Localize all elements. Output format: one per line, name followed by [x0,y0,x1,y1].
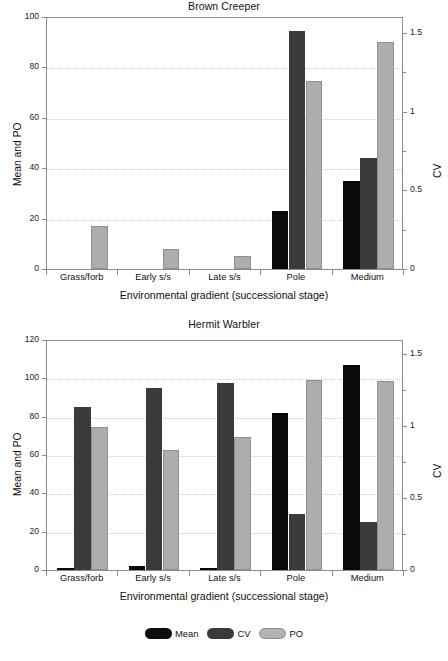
legend-swatch-po [259,628,286,639]
y-axis-tick-label: 100 [6,372,39,382]
y-axis-right-minor-tick [403,390,406,391]
y-axis-tick [42,340,46,341]
bar-cv [360,522,377,570]
y-axis-right-minor-tick [403,462,406,463]
bar-cv [217,383,234,570]
x-axis-title-b: Environmental gradient (successional sta… [0,590,448,602]
x-axis-category-label: Late s/s [189,573,260,583]
y-axis-tick-label: 40 [6,487,39,497]
x-axis-category-label: Grass/forb [46,272,117,282]
x-axis-line [46,570,403,571]
bar-po [163,249,180,269]
panel-hermit-warbler: Hermit Warbler B Mean and PO CV Environm… [0,318,448,608]
bar-mean [272,211,289,269]
legend-label-cv: CV [237,628,250,639]
y-axis-tick-label: 60 [6,449,39,459]
x-axis-category-separator [260,570,261,576]
x-axis-category-label: Grass/forb [46,573,117,583]
bar-cv [289,514,306,570]
y-axis-tick [42,168,46,169]
chart-title-a: Brown Creeper [0,0,448,12]
figure-legend: MeanCVPO [0,628,448,639]
y-axis-tick [42,455,46,456]
y-axis-tick [42,118,46,119]
y-axis-tick-label: 0 [6,263,39,273]
y-axis-right-tick [403,112,407,113]
bar-cv [146,388,163,570]
panel-brown-creeper: Brown Creeper A Mean and PO CV Environme… [0,0,448,305]
y-axis-right-title-b: CV [432,464,443,478]
x-axis-category-label: Late s/s [189,272,260,282]
bar-po [91,427,108,570]
y-axis-right-minor-tick [403,534,406,535]
y-axis-right-tick-label: 1 [410,420,415,430]
y-axis-tick-label: 40 [6,162,39,172]
x-axis-category-label: Medium [332,573,403,583]
chart-title-b: Hermit Warbler [0,318,448,330]
x-axis-line [46,269,403,270]
bar-po [91,226,108,269]
bar-mean [343,365,360,570]
y-axis-right-tick [403,354,407,355]
gridline [47,169,402,170]
y-axis-tick [42,17,46,18]
x-axis-category-separator [189,570,190,576]
bar-po [377,381,394,570]
x-axis-category-separator [117,570,118,576]
legend-label-mean: Mean [175,628,198,639]
y-axis-tick-label: 80 [6,61,39,71]
y-axis-title-a: Mean and PO [12,122,23,186]
bar-po [306,81,323,269]
legend-item-cv: CV [207,628,250,639]
bar-cv [74,407,91,570]
plot-area-a [46,17,403,269]
y-axis-right-minor-tick [403,230,406,231]
legend-swatch-mean [145,628,172,639]
y-axis-right-tick-label: 1 [410,106,415,116]
y-axis-right-tick [403,426,407,427]
bar-po [377,42,394,269]
bar-po [163,450,180,570]
x-axis-category-separator [260,269,261,275]
y-axis-right-minor-tick [403,72,406,73]
y-axis-right-title-a: CV [432,164,443,178]
x-axis-category-label: Pole [260,573,331,583]
x-axis-category-separator [46,269,47,275]
y-axis-right-tick-label: 1.5 [410,348,422,358]
y-axis-tick-label: 80 [6,411,39,421]
legend-label-po: PO [289,628,303,639]
x-axis-category-label: Early s/s [117,573,188,583]
y-axis-right-tick [403,33,407,34]
legend-swatch-cv [207,628,234,639]
y-axis-tick [42,219,46,220]
bar-po [234,437,251,570]
y-axis-right-tick-label: 0 [410,263,415,273]
gridline [47,68,402,69]
x-axis-category-separator [46,570,47,576]
plot-area-b [46,340,403,570]
y-axis-tick-label: 100 [6,11,39,21]
bar-po [234,256,251,269]
bar-mean [272,413,289,570]
x-axis-category-separator [403,269,404,275]
x-axis-title-a: Environmental gradient (successional sta… [0,289,448,301]
y-axis-tick-label: 20 [6,213,39,223]
y-axis-tick [42,532,46,533]
y-axis-tick [42,378,46,379]
bar-mean [343,181,360,269]
x-axis-category-separator [332,269,333,275]
x-axis-category-label: Pole [260,272,331,282]
bar-po [306,380,323,570]
y-axis-right-minor-tick [403,151,406,152]
legend-item-mean: Mean [145,628,198,639]
y-axis-right-tick-label: 0.5 [410,184,422,194]
x-axis-category-separator [117,269,118,275]
y-axis-right-tick [403,498,407,499]
legend-item-po: PO [259,628,303,639]
x-axis-category-separator [332,570,333,576]
y-axis-tick-label: 60 [6,112,39,122]
y-axis-right-tick-label: 0 [410,564,415,574]
y-axis-tick-label: 0 [6,564,39,574]
x-axis-category-separator [189,269,190,275]
x-axis-category-separator [403,570,404,576]
